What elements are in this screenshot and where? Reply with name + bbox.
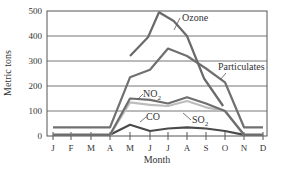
- x-tick-label: J: [51, 143, 55, 153]
- line-chart: 0100200300400500 JFMAMJJASOND OzoneParti…: [0, 0, 286, 176]
- y-axis-title: Metric tons: [2, 50, 13, 96]
- x-tick-label: M: [126, 143, 134, 153]
- x-tick-label: S: [203, 143, 208, 153]
- x-tick-label: D: [260, 143, 267, 153]
- y-axis-ticks: 0100200300400500: [29, 6, 43, 141]
- y-tick-label: 0: [38, 131, 43, 141]
- y-tick-label: 500: [29, 6, 43, 16]
- x-tick-label: N: [241, 143, 248, 153]
- series-label-ozone: Ozone: [182, 12, 209, 23]
- x-tick-label: F: [68, 143, 73, 153]
- x-tick-label: A: [184, 143, 191, 153]
- label-leader-line: [183, 113, 191, 120]
- x-tick-label: J: [148, 143, 152, 153]
- y-tick-label: 200: [29, 81, 43, 91]
- x-tick-label: J: [166, 143, 170, 153]
- y-tick-label: 400: [29, 31, 43, 41]
- x-tick-label: A: [107, 143, 114, 153]
- label-leader-line: [220, 73, 226, 80]
- y-tick-label: 300: [29, 56, 43, 66]
- x-tick-label: O: [222, 143, 229, 153]
- x-axis-title: Month: [144, 154, 171, 165]
- series-label-so2: SO2: [192, 114, 209, 128]
- series-label-particulates: Particulates: [218, 61, 265, 72]
- x-tick-label: M: [87, 143, 95, 153]
- y-tick-label: 100: [29, 106, 43, 116]
- series-label-co: CO: [146, 111, 160, 122]
